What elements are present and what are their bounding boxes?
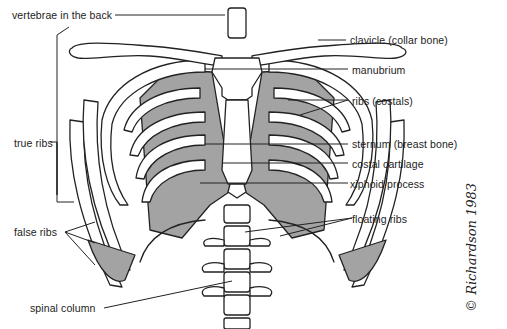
- rib-cage-illustration: [0, 0, 507, 329]
- label-false-ribs: false ribs: [14, 226, 57, 238]
- label-xiphoid-process: xiphoid process: [350, 178, 424, 190]
- label-ribs-costals: ribs (costals): [352, 95, 413, 107]
- label-true-ribs: true ribs: [14, 137, 53, 149]
- label-sternum: sternum (breast bone): [352, 138, 457, 150]
- label-spinal-column: spinal column: [30, 302, 96, 314]
- label-manubrium: manubrium: [352, 64, 405, 76]
- label-floating-ribs: floating ribs: [352, 213, 407, 225]
- label-clavicle: clavicle (collar bone): [350, 34, 448, 46]
- label-vertebrae: vertebrae in the back: [12, 9, 112, 21]
- artist-signature: © Richardson 1983: [464, 183, 479, 312]
- rib-cage-diagram: vertebrae in the back true ribs false ri…: [0, 0, 507, 329]
- label-costal-cartilage: costal cartilage: [352, 158, 424, 170]
